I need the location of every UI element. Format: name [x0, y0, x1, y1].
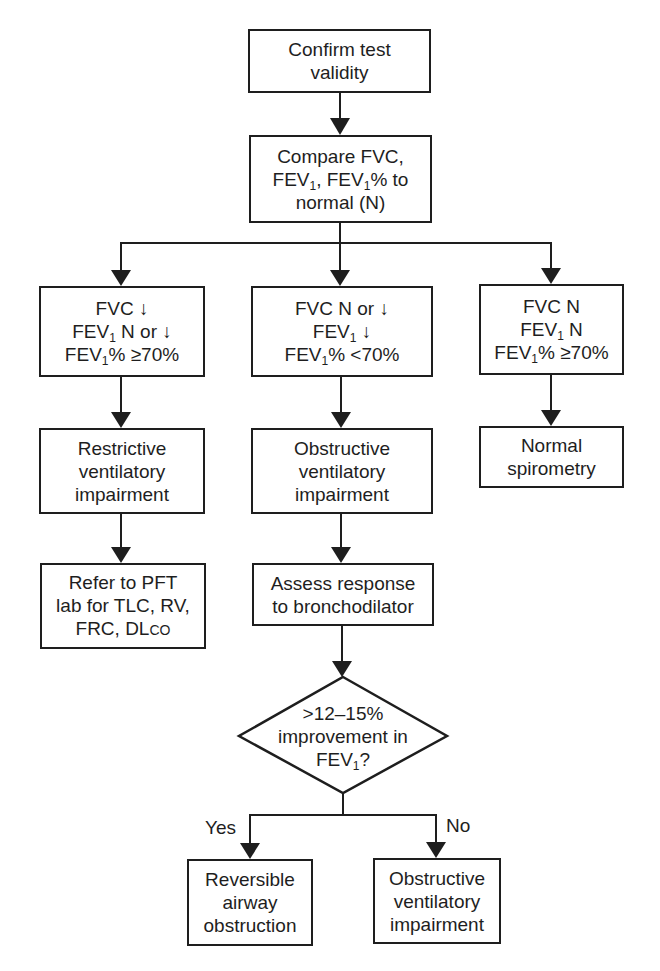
node-confirm-test-validity: Confirm test validity	[248, 29, 431, 93]
arrowhead-icon	[331, 412, 351, 428]
edge-branch-horizontal	[121, 243, 551, 272]
node-text: FRC, DLCO	[76, 617, 171, 642]
node-text: FVC ↓	[96, 297, 149, 320]
text: N or ↓	[116, 321, 172, 342]
node-text: Reversible	[205, 868, 295, 891]
text: FEV	[313, 321, 350, 342]
node-text: FEV1% ≥70%	[65, 343, 179, 366]
node-text: Restrictive	[78, 437, 167, 460]
node-text: lab for TLC, RV,	[56, 594, 190, 617]
node-text: FEV1, FEV1% to	[273, 168, 409, 191]
node-text: FEV1% <70%	[285, 343, 400, 366]
arrowhead-icon	[330, 118, 350, 135]
node-text: Compare FVC,	[277, 145, 404, 168]
node-text: Obstructive	[294, 437, 390, 460]
arrowhead-icon	[541, 268, 561, 284]
node-assess-bronchodilator: Assess response to bronchodilator	[252, 563, 434, 626]
text: FEV	[316, 749, 353, 770]
node-refer-pft-lab: Refer to PFT lab for TLC, RV, FRC, DLCO	[40, 563, 206, 649]
text: N	[564, 319, 583, 340]
node-text: Refer to PFT	[69, 571, 178, 594]
node-text: Confirm test	[288, 38, 390, 61]
node-text: ventilatory	[394, 890, 481, 913]
arrowhead-icon	[240, 843, 260, 859]
text: FRC, DL	[76, 618, 150, 639]
subscript: 1	[353, 759, 360, 773]
node-normal-spirometry: Normal spirometry	[479, 426, 624, 488]
text: FEV	[72, 321, 109, 342]
node-text: to bronchodilator	[272, 595, 414, 618]
node-text: validity	[310, 61, 368, 84]
text: FEV	[285, 344, 322, 365]
text: ↓	[356, 321, 371, 342]
node-text: normal (N)	[296, 191, 386, 214]
node-text: impairment	[75, 483, 169, 506]
node-obstructive-criteria: FVC N or ↓ FEV1 ↓ FEV1% <70%	[251, 286, 433, 377]
arrowhead-icon	[331, 547, 351, 563]
node-normal-criteria: FVC N FEV1 N FEV1% ≥70%	[479, 284, 624, 375]
arrowhead-icon	[541, 410, 561, 426]
text: FEV	[494, 342, 531, 363]
arrowhead-icon	[111, 412, 131, 428]
node-text: obstruction	[204, 914, 297, 937]
arrowhead-icon	[111, 270, 131, 286]
node-text: FEV1 N	[520, 318, 583, 341]
node-text: FEV1?	[316, 748, 370, 771]
node-restrictive-criteria: FVC ↓ FEV1 N or ↓ FEV1% ≥70%	[39, 286, 205, 377]
text: ?	[360, 749, 371, 770]
edge-label-no: No	[446, 815, 470, 837]
node-text: airway	[223, 891, 278, 914]
text: FEV	[520, 319, 557, 340]
node-obstructive-impairment-final: Obstructive ventilatory impairment	[373, 858, 501, 944]
text-fev: FEV	[273, 169, 310, 190]
text: % ≥70%	[538, 342, 609, 363]
subscript: 1	[531, 352, 538, 366]
node-text: FEV1 ↓	[313, 320, 371, 343]
node-text: >12–15%	[303, 702, 384, 725]
node-reversible-obstruction: Reversible airway obstruction	[187, 859, 313, 946]
text: , FEV	[316, 169, 364, 190]
text: % ≥70%	[109, 344, 180, 365]
text: % <70%	[328, 344, 399, 365]
node-text: FVC N	[523, 295, 580, 318]
node-text: impairment	[390, 913, 484, 936]
node-obstructive-impairment: Obstructive ventilatory impairment	[251, 428, 433, 514]
node-compare-to-normal: Compare FVC, FEV1, FEV1% to normal (N)	[249, 135, 432, 223]
subscript: 1	[102, 354, 109, 368]
edge-label-yes: Yes	[205, 817, 236, 839]
text: FEV	[65, 344, 102, 365]
node-text: Normal	[521, 434, 582, 457]
node-text: improvement in	[278, 725, 408, 748]
text: % to	[370, 169, 408, 190]
node-text: spirometry	[507, 457, 596, 480]
node-text: ventilatory	[299, 460, 386, 483]
small-caps-text: CO	[149, 622, 170, 638]
node-text: Assess response	[271, 572, 416, 595]
arrowhead-icon	[426, 842, 446, 858]
arrowhead-icon	[332, 661, 352, 677]
decision-text: >12–15% improvement in FEV1?	[263, 700, 423, 772]
node-text: Obstructive	[389, 867, 485, 890]
node-text: FVC N or ↓	[295, 297, 389, 320]
node-restrictive-impairment: Restrictive ventilatory impairment	[39, 428, 205, 514]
arrowhead-icon	[330, 270, 350, 286]
node-text: impairment	[295, 483, 389, 506]
node-text: ventilatory	[79, 460, 166, 483]
node-text: FEV1% ≥70%	[494, 341, 608, 364]
node-text: FEV1 N or ↓	[72, 320, 172, 343]
arrowhead-icon	[111, 547, 131, 563]
